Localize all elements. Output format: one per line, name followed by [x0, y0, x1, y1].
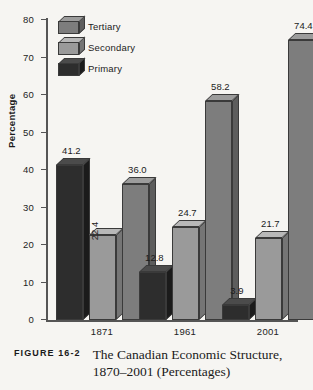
bar-value-label: 41.2 [62, 145, 81, 156]
bar-value-label: 24.7 [178, 207, 197, 218]
chart-legend: Tertiary Secondary Primary [58, 16, 135, 79]
y-axis-title: Percentage [6, 94, 17, 148]
x-axis-line [46, 320, 298, 322]
bar-front [139, 272, 166, 320]
y-tick-label-80: 80 [23, 14, 34, 25]
bar-2001-secondary[interactable]: 21.7 [255, 238, 282, 320]
y-tick-30: 30 [41, 207, 47, 208]
y-tick-20: 20 [41, 244, 47, 245]
y-tick-label-30: 30 [23, 201, 34, 212]
y-tick-label-70: 70 [23, 51, 34, 62]
bar-value-label: 22.4 [89, 222, 100, 241]
y-tick-40: 40 [41, 169, 47, 170]
bar-value-label: 21.7 [261, 218, 280, 229]
swatch-front [58, 63, 79, 76]
bar-front [255, 238, 282, 320]
bar-1961-primary[interactable]: 12.8 [139, 272, 166, 320]
x-tick-label-2001: 2001 [218, 326, 313, 337]
bar-1871-secondary[interactable]: 22.4 [89, 235, 116, 320]
bar-front [172, 227, 199, 320]
y-tick-0: 0 [41, 319, 47, 320]
y-tick-label-10: 10 [23, 276, 34, 287]
bar-front [89, 235, 116, 320]
figure-title-line2: 1870–2001 (Percentages) [93, 364, 231, 379]
bar-value-label: 36.0 [128, 164, 147, 175]
legend-item-primary[interactable]: Primary [58, 58, 135, 79]
bar-front [288, 40, 313, 320]
swatch-front [58, 42, 79, 55]
legend-label-primary: Primary [88, 63, 122, 74]
swatch-front [58, 21, 79, 34]
legend-swatch-primary-icon [58, 63, 79, 76]
bar-front [205, 101, 232, 320]
bar-value-label: 3.9 [230, 285, 243, 296]
y-tick-label-60: 60 [23, 89, 34, 100]
y-tick-70: 70 [41, 57, 47, 58]
bar-front [56, 165, 83, 320]
bar-2001-tertiary[interactable]: 74.4 [288, 40, 313, 320]
y-axis-line [46, 18, 48, 322]
bar-value-label: 58.2 [211, 81, 230, 92]
figure-container: 0 10 20 30 40 50 60 70 80 41.2 22.4 [0, 0, 313, 390]
figure-title: The Canadian Economic Structure, 1870–20… [93, 346, 283, 380]
bar-value-label: 74.4 [294, 20, 313, 31]
bar-2001-primary[interactable]: 3.9 [222, 305, 249, 320]
figure-number: FIGURE 16-2 [14, 346, 81, 358]
legend-label-secondary: Secondary [88, 42, 135, 53]
y-tick-label-50: 50 [23, 126, 34, 137]
bar-top [288, 33, 313, 40]
bar-front [222, 305, 249, 320]
bar-value-label: 12.8 [145, 252, 164, 263]
y-tick-10: 10 [41, 282, 47, 283]
legend-item-secondary[interactable]: Secondary [58, 37, 135, 58]
y-tick-label-20: 20 [23, 239, 34, 250]
y-tick-label-0: 0 [29, 314, 34, 325]
y-tick-50: 50 [41, 132, 47, 133]
figure-title-line1: The Canadian Economic Structure, [93, 347, 283, 362]
bar-1961-secondary[interactable]: 24.7 [172, 227, 199, 320]
y-tick-80: 80 [41, 19, 47, 20]
y-tick-label-40: 40 [23, 164, 34, 175]
bar-1961-tertiary[interactable]: 58.2 [205, 101, 232, 320]
figure-caption: FIGURE 16-2 The Canadian Economic Struct… [14, 346, 306, 380]
y-tick-60: 60 [41, 94, 47, 95]
legend-item-tertiary[interactable]: Tertiary [58, 16, 135, 37]
legend-swatch-secondary-icon [58, 42, 79, 55]
legend-label-tertiary: Tertiary [88, 21, 121, 32]
legend-swatch-tertiary-icon [58, 21, 79, 34]
bar-1871-primary[interactable]: 41.2 [56, 165, 83, 320]
